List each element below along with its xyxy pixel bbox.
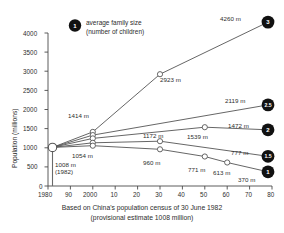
data-point-960[interactable] [157, 147, 162, 152]
endpoint-marker-2-5[interactable]: 2.5 [262, 99, 275, 112]
data-label-2119: 2119 m [225, 97, 245, 104]
x-tick-1990: 90 [65, 191, 72, 198]
legend-line-1: average family size [86, 19, 142, 27]
caption-line-2: (provisional estimate 1008 million) [0, 213, 284, 223]
data-label-960: 960 m [143, 159, 160, 166]
y-tick-1500: 1500 [23, 125, 37, 132]
y-tick-marks [45, 33, 49, 186]
y-tick-0: 0 [39, 183, 43, 190]
data-point-1172[interactable] [157, 139, 162, 144]
data-point-origin-1008[interactable] [48, 143, 56, 151]
data-point-771[interactable] [202, 154, 207, 159]
y-tick-2000: 2000 [23, 106, 37, 113]
x-tick-2080: 80 [267, 191, 274, 198]
data-label-1054: 1054 m [72, 152, 93, 159]
data-point-613[interactable] [225, 160, 230, 165]
y-tick-4000: 4000 [23, 30, 37, 37]
endpoint-marker-3[interactable]: 3 [262, 16, 275, 29]
endpoint-marker-1[interactable]: 1 [262, 165, 275, 178]
data-label-1472: 1472 m [228, 122, 249, 129]
data-label-1539: 1539 m [187, 133, 208, 140]
y-tick-3000: 3000 [23, 68, 37, 75]
y-tick-2500: 2500 [23, 87, 37, 94]
caption-line-1: Based on China's population census of 30… [0, 203, 284, 213]
endpoint-marker-1-5-label: 1.5 [264, 153, 271, 159]
data-label-2923: 2923 m [160, 76, 181, 83]
chart-figure: 3 2.5 2 1.5 1 1 average family size (num… [0, 0, 284, 233]
x-tick-marks [48, 186, 272, 190]
x-tick-2070: 70 [245, 191, 252, 198]
x-tick-2000: 2000 [83, 191, 97, 198]
data-point-1539[interactable] [202, 125, 207, 130]
data-label-1414: 1414 m [68, 112, 89, 119]
data-label-1172: 1172 m [143, 132, 163, 139]
x-tick-2060: 60 [223, 191, 230, 198]
data-label-4260: 4260 m [220, 15, 241, 22]
endpoint-marker-1-5[interactable]: 1.5 [262, 150, 275, 163]
x-tick-2010: 10 [111, 191, 118, 198]
x-tick-2030: 30 [155, 191, 162, 198]
y-tick-500: 500 [27, 163, 38, 170]
origin-year-label: (1982) [55, 168, 73, 175]
data-point-1054[interactable] [90, 143, 95, 148]
endpoint-marker-2-5-label: 2.5 [264, 102, 271, 108]
data-label-370: 370 m [238, 176, 255, 183]
legend-line-2: (number of children) [86, 28, 144, 36]
y-axis-title: Population (millions) [11, 109, 18, 168]
data-label-613: 613 m [213, 169, 230, 176]
origin-value-label: 1008 m [55, 161, 76, 168]
y-tick-1000: 1000 [23, 144, 37, 151]
endpoint-marker-2[interactable]: 2 [262, 123, 275, 136]
data-label-771: 771 m [188, 166, 205, 173]
x-tick-1980: 1980 [38, 191, 52, 198]
data-label-777: 777 m [231, 149, 248, 156]
y-tick-3500: 3500 [23, 49, 37, 56]
legend-marker: 1 [69, 19, 81, 31]
x-tick-2020: 20 [133, 191, 140, 198]
x-tick-2040: 40 [178, 191, 185, 198]
x-tick-2050: 50 [200, 191, 207, 198]
